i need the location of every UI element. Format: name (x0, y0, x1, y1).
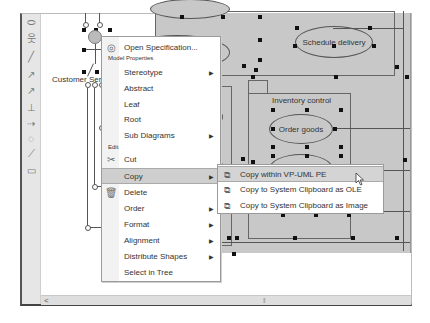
selection-handle[interactable] (258, 38, 262, 42)
selection-handle[interactable] (372, 44, 376, 48)
selection-handle[interactable] (271, 127, 275, 131)
association-tool-icon[interactable]: ╱ (24, 50, 38, 64)
context-menu: ◎ Open Specification... Model Properties… (101, 36, 221, 282)
anchor-tool-icon[interactable]: ⟋ (24, 147, 38, 161)
menu-section-edit: Edit (108, 144, 118, 150)
selection-handle[interactable] (339, 154, 343, 158)
selection-handle[interactable] (82, 28, 86, 32)
selection-handle[interactable] (368, 26, 372, 30)
scissors-icon: ✂ (105, 154, 117, 166)
menu-item-sub-diagrams[interactable]: Sub Diagrams ▶ (102, 128, 220, 144)
selection-handle[interactable] (82, 70, 86, 74)
selection-handle[interactable] (293, 44, 297, 48)
selection-handle[interactable] (221, 15, 225, 19)
use-case-schedule-delivery[interactable]: Schedule delivery (295, 26, 373, 58)
selection-handle[interactable] (242, 64, 246, 68)
menu-item-label: Delete (124, 185, 147, 201)
submenu-item-label: Copy within VP-UML PE (240, 167, 326, 183)
selection-handle[interactable] (235, 236, 239, 240)
menu-item-format[interactable]: Format ▶ (102, 217, 220, 233)
selection-handle[interactable] (305, 154, 309, 158)
generalization-tool-icon[interactable]: ⊥ (24, 101, 38, 115)
copy-ole-icon: ⧉ (221, 184, 233, 196)
selection-handle[interactable] (351, 236, 355, 240)
submenu-item-copy-clipboard-image[interactable]: ⧉ Copy to System Clipboard as Image (218, 198, 383, 214)
rectangle-tool-icon[interactable]: ▭ (24, 164, 38, 178)
menu-item-label: Copy (124, 169, 143, 185)
selection-handle[interactable] (82, 48, 86, 52)
connector-line (94, 88, 95, 187)
menu-item-leaf[interactable]: Leaf (102, 97, 220, 113)
scroll-left-arrow-icon[interactable]: < (44, 296, 49, 305)
selection-handle[interactable] (305, 108, 309, 112)
menu-item-stereotype[interactable]: Stereotype ▶ (102, 65, 220, 81)
selection-handle[interactable] (258, 15, 262, 19)
menu-item-order[interactable]: Order ▶ (102, 201, 220, 217)
menu-item-open-specification[interactable]: ◎ Open Specification... (102, 40, 220, 56)
selection-handle[interactable] (332, 44, 336, 48)
selection-handle[interactable] (227, 236, 231, 240)
scrollbar-grip[interactable]: ||| (263, 297, 265, 303)
submenu-arrow-icon: ▶ (209, 217, 214, 233)
menu-item-distribute-shapes[interactable]: Distribute Shapes ▶ (102, 249, 220, 265)
realization-tool-icon[interactable]: ⇢ (24, 117, 38, 131)
include-tool-icon[interactable]: ↗ (24, 68, 38, 82)
menu-item-label: Format (124, 217, 149, 233)
menu-item-label: Cut (124, 152, 136, 168)
selection-handle[interactable] (271, 154, 275, 158)
selection-handle[interactable] (271, 108, 275, 112)
menu-item-select-in-tree[interactable]: Select in Tree (102, 265, 220, 281)
menu-item-root[interactable]: Root (102, 112, 220, 128)
trash-icon: 🗑 (105, 187, 117, 199)
selection-handle[interactable] (108, 28, 112, 32)
submenu-arrow-icon: ▶ (209, 233, 214, 249)
menu-section-model-properties: Model Properties (108, 55, 153, 61)
use-case-tool-icon[interactable]: ⬭ (24, 16, 38, 30)
submenu-item-label: Copy to System Clipboard as OLE (240, 182, 362, 198)
menu-item-label: Root (124, 112, 141, 128)
submenu-arrow-icon: ▶ (209, 65, 214, 81)
actor-tool-icon[interactable]: 웃 (24, 32, 38, 46)
selection-handle[interactable] (405, 75, 409, 79)
selection-handle[interactable] (258, 58, 262, 62)
selection-handle[interactable] (251, 75, 255, 79)
menu-item-alignment[interactable]: Alignment ▶ (102, 233, 220, 249)
selection-handle[interactable] (295, 26, 299, 30)
selection-handle[interactable] (333, 127, 337, 131)
menu-item-label: Order (124, 201, 144, 217)
horizontal-scrollbar[interactable]: < ||| (41, 295, 411, 305)
copy-image-icon: ⧉ (221, 200, 233, 212)
submenu-item-label: Copy to System Clipboard as Image (240, 198, 368, 214)
connector-line (333, 128, 410, 129)
selection-handle[interactable] (305, 145, 309, 149)
actor-body (95, 44, 96, 64)
menu-item-label: Abstract (124, 81, 153, 97)
selection-handle[interactable] (271, 145, 275, 149)
selection-handle[interactable] (95, 70, 99, 74)
package-inventory-tab (248, 80, 268, 94)
selection-handle[interactable] (403, 158, 407, 162)
use-case-top-partial (150, 0, 230, 19)
package-tool-icon[interactable]: ◌ (24, 132, 38, 146)
selection-handle[interactable] (241, 157, 245, 161)
menu-item-label: Open Specification... (124, 40, 198, 56)
selection-handle[interactable] (180, 15, 184, 19)
menu-item-copy[interactable]: Copy ▶ (102, 168, 220, 184)
selection-handle[interactable] (293, 236, 297, 240)
selection-handle[interactable] (254, 68, 258, 72)
selection-handle[interactable] (395, 65, 399, 69)
selection-handle[interactable] (339, 145, 343, 149)
menu-item-cut[interactable]: ✂ Cut (102, 152, 220, 168)
selection-handle[interactable] (334, 75, 338, 79)
extend-tool-icon[interactable]: ↗ (24, 84, 38, 98)
selection-handle[interactable] (339, 108, 343, 112)
diagram-toolbar: ⬭ 웃 ╱ ↗ ↗ ⊥ ⇢ ◌ ⟋ ▭ (22, 14, 41, 304)
menu-item-label: Stereotype (124, 65, 163, 81)
connector-end (92, 184, 98, 190)
use-case-order-goods[interactable]: Order goods (269, 114, 333, 144)
menu-item-label: Distribute Shapes (124, 249, 187, 265)
menu-item-abstract[interactable]: Abstract (102, 81, 220, 97)
selection-handle[interactable] (395, 236, 399, 240)
menu-item-delete[interactable]: 🗑 Delete (102, 185, 220, 201)
selection-handle[interactable] (232, 252, 236, 256)
